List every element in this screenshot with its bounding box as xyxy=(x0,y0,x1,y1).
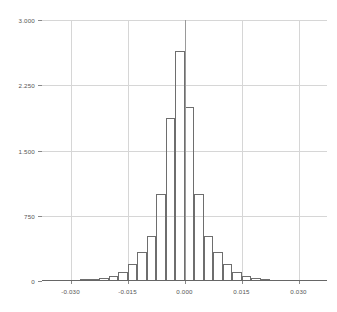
x-tick-mark-1 xyxy=(128,281,129,284)
histogram-bar xyxy=(128,264,138,281)
y-tick-label: 750 xyxy=(24,212,35,219)
x-tick-mark-3 xyxy=(242,281,243,284)
histogram-bar xyxy=(166,118,176,281)
y-tick-label: 0 xyxy=(31,278,35,285)
y-tick-label: 3.000 xyxy=(19,17,35,24)
histogram-bar xyxy=(223,264,233,281)
x-tick-mark-0 xyxy=(71,281,72,284)
histogram-bar xyxy=(204,236,214,281)
x-tick-label: -0.015 xyxy=(118,288,137,295)
gridline-x-0 xyxy=(71,20,72,281)
center-reference-rule xyxy=(185,20,186,281)
x-tick-label: 0.015 xyxy=(233,288,249,295)
histogram-bar xyxy=(185,107,195,281)
x-tick-label: 0.030 xyxy=(290,288,306,295)
histogram-bar xyxy=(156,194,166,281)
x-tick-mark-2 xyxy=(185,281,186,284)
histogram-bar xyxy=(213,252,223,281)
gridline-x-4 xyxy=(299,20,300,281)
x-tick-label: 0.000 xyxy=(176,288,192,295)
x-tick-label: -0.030 xyxy=(61,288,80,295)
gridline-x-3 xyxy=(242,20,243,281)
x-axis-line xyxy=(42,280,327,281)
histogram-bar xyxy=(137,252,147,281)
histogram-bar xyxy=(147,236,157,281)
y-tick-mark-0 xyxy=(38,281,42,282)
histogram-chart: 07501.5002.2503.000 -0.030-0.0150.0000.0… xyxy=(0,0,337,312)
plot-area xyxy=(42,20,327,281)
histogram-bar xyxy=(175,51,185,281)
y-tick-label: 1.500 xyxy=(19,147,35,154)
x-tick-mark-4 xyxy=(299,281,300,284)
gridline-x-1 xyxy=(128,20,129,281)
y-tick-label: 2.250 xyxy=(19,82,35,89)
histogram-bar xyxy=(194,194,204,281)
